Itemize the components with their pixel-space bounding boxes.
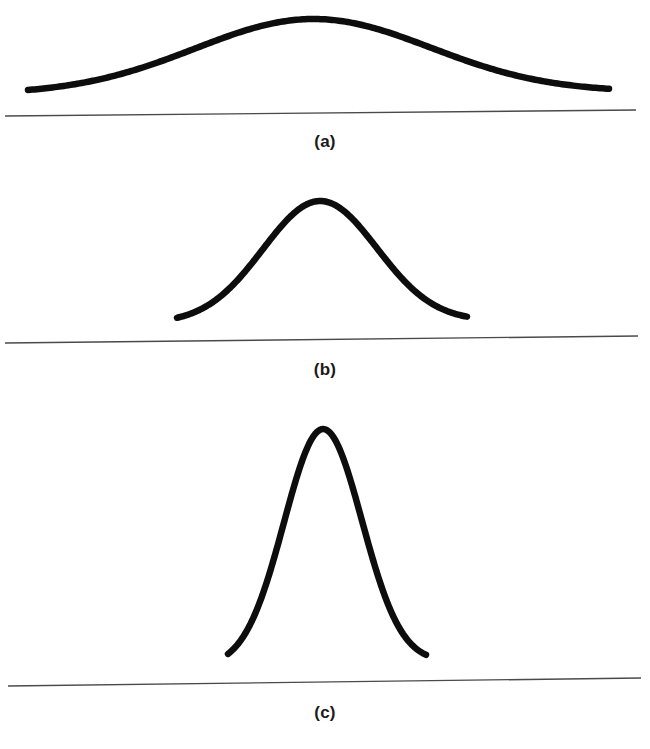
baseline-b (5, 336, 638, 343)
figure-root: (a) (b) (c) (0, 0, 650, 749)
panel-label-b: (b) (0, 360, 650, 380)
panel-a: (a) (0, 0, 650, 165)
panel-label-a: (a) (0, 132, 650, 152)
baseline-c (8, 678, 641, 686)
panel-c: (c) (0, 395, 650, 749)
panel-label-c: (c) (0, 703, 650, 723)
normal-curve-c (228, 429, 426, 655)
baseline-a (5, 110, 636, 116)
normal-curve-b (177, 201, 467, 318)
normal-curve-a (28, 19, 609, 90)
panel-b: (b) (0, 165, 650, 395)
panel-c-graphic (0, 395, 650, 749)
